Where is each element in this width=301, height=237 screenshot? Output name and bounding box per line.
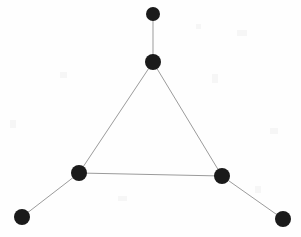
graph-node-n3[interactable] [71, 165, 87, 181]
paper-speck [10, 120, 16, 128]
paper-speck [196, 24, 201, 29]
graph-edge-n2-n3 [79, 62, 153, 173]
paper-speck [212, 74, 218, 83]
graph-edge-n3-n5 [22, 173, 79, 217]
graph-node-n5[interactable] [14, 209, 30, 225]
paper-speck [118, 196, 127, 201]
graph-node-n1[interactable] [146, 7, 160, 21]
paper-speck [237, 30, 247, 36]
paper-speck [255, 186, 261, 193]
graph-edge-n3-n4 [79, 173, 222, 176]
graph-node-n2[interactable] [145, 54, 161, 70]
graph-diagram [0, 0, 301, 237]
graph-canvas [0, 0, 301, 237]
graph-edge-n2-n4 [153, 62, 222, 176]
paper-speck [60, 72, 67, 78]
edge-layer [22, 14, 283, 219]
graph-node-n6[interactable] [275, 211, 291, 227]
paper-speck [270, 128, 278, 134]
graph-node-n4[interactable] [214, 168, 230, 184]
graph-edge-n4-n6 [222, 176, 283, 219]
